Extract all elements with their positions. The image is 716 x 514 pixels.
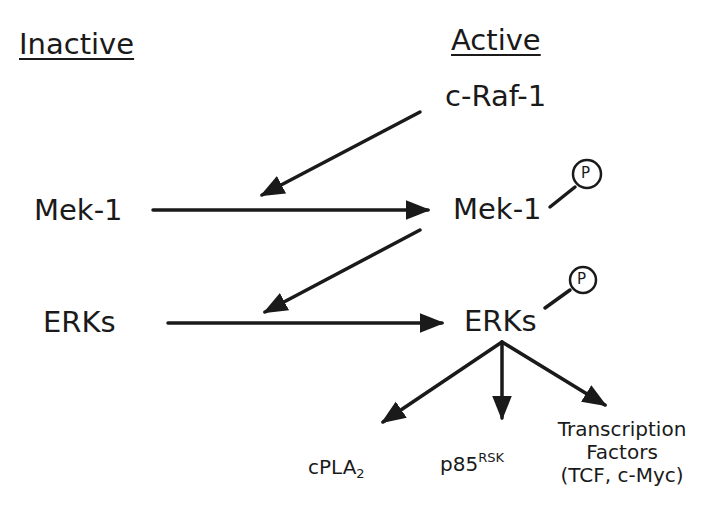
inactive-header: Inactive [19, 30, 134, 59]
node-erks-active: ERKs [464, 307, 537, 336]
phospho-label-erk: P [577, 272, 586, 287]
phospho-stalk-erk [545, 290, 570, 308]
node-c-raf-1: c-Raf-1 [445, 82, 546, 111]
arrow-erk-to-tf [502, 342, 605, 405]
node-mek-1-inactive: Mek-1 [34, 196, 123, 225]
node-mek-1-active: Mek-1 [453, 195, 542, 224]
target-p85-rsk: p85RSK [440, 451, 504, 474]
target-transcription-factors: Transcription Factors (TCF, c-Myc) [536, 418, 708, 487]
target-cpla2: cPLA2 [308, 457, 365, 480]
arrow-raf-to-mek [262, 112, 420, 195]
arrow-erk-to-cpla2 [383, 342, 502, 422]
phospho-label-mek: P [581, 166, 590, 181]
node-erks-inactive: ERKs [43, 308, 116, 337]
phospho-stalk-mek [550, 187, 575, 207]
arrow-mek-to-erk [265, 230, 420, 312]
active-header: Active [451, 26, 541, 55]
